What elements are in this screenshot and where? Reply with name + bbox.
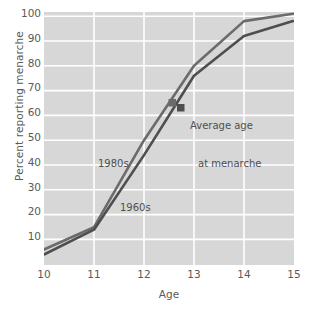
y-tick-90: 90 xyxy=(1,33,41,44)
average-age-callout-line2: at menarche xyxy=(198,158,261,171)
series-label-1980s: 1980s xyxy=(98,158,129,169)
y-tick-60: 60 xyxy=(1,107,41,118)
x-tick-11: 11 xyxy=(74,269,114,280)
x-tick-14: 14 xyxy=(224,269,264,280)
average-age-callout: Average age at menarche xyxy=(190,95,261,195)
x-tick-10: 10 xyxy=(24,269,64,280)
series-label-1960s: 1960s xyxy=(120,202,151,213)
x-tick-13: 13 xyxy=(174,269,214,280)
average-age-marker-1980s xyxy=(169,99,177,107)
x-tick-12: 12 xyxy=(124,269,164,280)
x-tick-15: 15 xyxy=(274,269,313,280)
y-tick-30: 30 xyxy=(1,182,41,193)
y-tick-100: 100 xyxy=(1,8,41,19)
y-tick-70: 70 xyxy=(1,82,41,93)
y-tick-80: 80 xyxy=(1,58,41,69)
x-axis-title: Age xyxy=(44,288,294,300)
average-age-marker-1960s xyxy=(177,104,185,112)
y-tick-50: 50 xyxy=(1,132,41,143)
y-tick-20: 20 xyxy=(1,206,41,217)
chart-figure: Percent reporting menarche 100 90 80 70 … xyxy=(0,0,313,310)
y-axis-ticks: 100 90 80 70 60 50 40 30 20 10 xyxy=(0,0,41,310)
y-tick-40: 40 xyxy=(1,157,41,168)
average-age-callout-line1: Average age xyxy=(190,120,261,133)
plot-area: Average age at menarche 1980s 1960s xyxy=(44,12,294,265)
y-tick-10: 10 xyxy=(1,231,41,242)
